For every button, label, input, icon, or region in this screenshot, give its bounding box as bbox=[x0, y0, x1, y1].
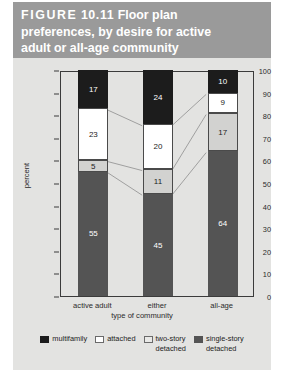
bar-segment-value: 9 bbox=[220, 98, 224, 107]
y-tick-mark bbox=[54, 229, 59, 230]
legend-item: single-story detached bbox=[194, 334, 244, 353]
bar-segment: 45 bbox=[143, 194, 173, 296]
connector-line bbox=[172, 115, 206, 171]
y-tick-mark bbox=[54, 116, 59, 117]
bar-segment: 11 bbox=[143, 169, 173, 194]
figure-label-word: FIGURE bbox=[21, 8, 77, 22]
bar-segment: 64 bbox=[208, 151, 238, 296]
connector-line bbox=[108, 162, 142, 171]
bar-column: 6417910 bbox=[208, 70, 238, 296]
figure-title-line-1: FIGURE 10.11 Floor plan bbox=[21, 7, 263, 24]
chart-area: percent 0102030405060708090100 555231745… bbox=[13, 58, 271, 314]
y-tick-mark bbox=[54, 93, 59, 94]
chart-legend: multifamilyattachedtwo-story detachedsin… bbox=[13, 334, 271, 353]
x-tick-label: either bbox=[148, 301, 167, 310]
legend-label: multifamily bbox=[52, 334, 87, 344]
bar-segment-value: 55 bbox=[89, 229, 98, 238]
bar-segment: 17 bbox=[78, 70, 108, 108]
legend-label: attached bbox=[107, 334, 135, 344]
bar-segment-value: 20 bbox=[154, 142, 163, 151]
bar-column: 45112024 bbox=[143, 70, 173, 296]
bar-segment-value: 17 bbox=[89, 85, 98, 94]
legend-label: two-story detached bbox=[156, 334, 186, 353]
bar-segment: 23 bbox=[78, 108, 108, 160]
y-tick-mark bbox=[54, 138, 59, 139]
legend-item: multifamily bbox=[40, 334, 87, 344]
y-tick-mark bbox=[54, 251, 59, 252]
y-tick-mark bbox=[54, 274, 59, 275]
bar-column: 5552317 bbox=[78, 70, 108, 296]
legend-swatch-twostory bbox=[144, 336, 153, 343]
bar-segment-value: 24 bbox=[154, 93, 163, 102]
y-tick-mark bbox=[54, 71, 59, 72]
legend-item: attached bbox=[95, 334, 135, 344]
figure-title-line-1-rest: Floor plan bbox=[114, 8, 177, 22]
bar-segment: 5 bbox=[78, 160, 108, 171]
connector-line bbox=[172, 94, 206, 125]
y-tick-mark bbox=[54, 161, 59, 162]
bar-segment-value: 11 bbox=[154, 177, 162, 186]
figure-title-line-2: preferences, by desire for active bbox=[21, 24, 263, 41]
bar-segment-value: 17 bbox=[218, 128, 227, 137]
x-axis-label: type of community bbox=[13, 311, 271, 320]
legend-label: single-story detached bbox=[206, 334, 244, 353]
bar-segment-value: 5 bbox=[91, 162, 95, 171]
legend-swatch-attached bbox=[95, 336, 104, 343]
y-tick-mark bbox=[54, 297, 59, 298]
y-tick-mark bbox=[54, 206, 59, 207]
bar-segment-value: 64 bbox=[218, 219, 227, 228]
figure-title-line-3: adult or all-age community bbox=[21, 40, 263, 57]
bar-segment-value: 23 bbox=[89, 130, 98, 139]
bar-segment: 17 bbox=[208, 113, 238, 151]
bar-segment: 55 bbox=[78, 172, 108, 296]
bar-segment: 9 bbox=[208, 93, 238, 113]
connector-line bbox=[108, 110, 142, 126]
figure-panel: FIGURE 10.11 Floor plan preferences, by … bbox=[13, 2, 271, 370]
figure-label-number: 10.11 bbox=[81, 8, 114, 22]
figure-title-band: FIGURE 10.11 Floor plan preferences, by … bbox=[13, 2, 271, 58]
y-axis-label: percent bbox=[22, 146, 31, 206]
bar-segment: 10 bbox=[208, 70, 238, 93]
bar-segment-value: 10 bbox=[218, 77, 227, 86]
x-tick-label: active adult bbox=[73, 301, 111, 310]
bar-segment: 24 bbox=[143, 70, 173, 124]
plot-frame: 5552317451120246417910 bbox=[60, 71, 254, 297]
x-tick-label: all-age bbox=[210, 301, 233, 310]
y-tick-mark bbox=[54, 184, 59, 185]
legend-item: two-story detached bbox=[144, 334, 186, 353]
connector-line bbox=[108, 173, 142, 195]
legend-swatch-multifamily bbox=[40, 336, 49, 343]
connector-line bbox=[172, 153, 206, 196]
bar-segment-value: 45 bbox=[154, 241, 163, 250]
bar-segment: 20 bbox=[143, 124, 173, 169]
legend-swatch-singlestory bbox=[194, 336, 203, 343]
